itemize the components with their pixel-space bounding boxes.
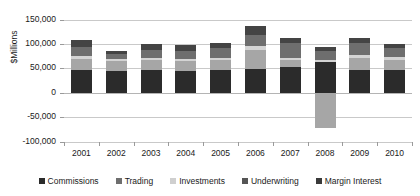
bar-segment [210, 58, 231, 60]
bar-segment [280, 60, 301, 67]
x-axis-tick [203, 142, 204, 146]
bar-segment [349, 70, 370, 93]
bar-segment [349, 55, 370, 58]
x-axis-tick [273, 142, 274, 146]
bar-segment [245, 69, 266, 92]
x-axis-tick [412, 142, 413, 146]
x-axis-label: 2010 [377, 148, 412, 158]
bar-segment [175, 45, 196, 51]
bar-segment [175, 61, 196, 71]
bar-segment [315, 51, 336, 60]
x-axis-label: 2007 [273, 148, 308, 158]
legend-label: Commissions [48, 176, 99, 186]
bar-segment [245, 35, 266, 46]
bar-column[interactable] [141, 20, 162, 142]
bar-column[interactable] [245, 20, 266, 142]
bar-column[interactable] [315, 20, 336, 142]
bar-segment [71, 59, 92, 70]
x-axis-tick [377, 142, 378, 146]
bar-segment [175, 59, 196, 61]
x-axis-label: 2009 [342, 148, 377, 158]
y-axis-tick [60, 68, 64, 69]
plot-area: 150,000100,00050,0000-50,000-100,000 [64, 20, 412, 142]
y-axis-tick-label: 50,000 [0, 62, 56, 72]
bar-segment [384, 48, 405, 57]
bar-segment [71, 40, 92, 46]
bar-column[interactable] [384, 20, 405, 142]
bar-segment [315, 47, 336, 51]
bar-segment [315, 93, 336, 128]
bar-segment [106, 54, 127, 58]
x-axis-label: 2003 [134, 148, 169, 158]
bar-segment [106, 51, 127, 54]
bar-segment [210, 43, 231, 48]
bar-column[interactable] [71, 20, 92, 142]
x-axis-tick [64, 142, 65, 146]
y-axis-tick [60, 44, 64, 45]
x-axis-tick [99, 142, 100, 146]
y-axis-tick-label: 150,000 [0, 14, 56, 24]
bar-segment [384, 70, 405, 92]
bar-column[interactable] [175, 20, 196, 142]
bar-segment [71, 56, 92, 59]
x-axis-label: 2005 [203, 148, 238, 158]
bar-segment [210, 70, 231, 92]
x-axis-label: 2004 [168, 148, 203, 158]
x-axis-tick [168, 142, 169, 146]
y-axis-tick [60, 117, 64, 118]
x-axis-tick [134, 142, 135, 146]
bar-segment [349, 38, 370, 44]
bar-column[interactable] [106, 20, 127, 142]
bar-segment [349, 43, 370, 55]
bar-segment [315, 62, 336, 92]
bar-segment [141, 60, 162, 70]
bar-segment [384, 57, 405, 59]
bar-segment [106, 59, 127, 61]
legend-swatch-icon [316, 178, 322, 184]
bar-segment [175, 71, 196, 93]
bar-segment [349, 58, 370, 70]
legend-swatch-icon [116, 178, 122, 184]
stacked-bar-chart: $Millions 150,000100,00050,0000-50,000-1… [0, 0, 420, 196]
x-axis-tick [308, 142, 309, 146]
chart-legend: CommissionsTradingInvestmentsUnderwritin… [0, 174, 420, 188]
bar-segment [384, 44, 405, 48]
bar-segment [280, 67, 301, 93]
legend-item[interactable]: Trading [116, 176, 154, 186]
bar-segment [280, 38, 301, 44]
x-axis-label: 2008 [308, 148, 343, 158]
y-axis-tick-label: 0 [0, 87, 56, 97]
y-axis-tick-label: -100,000 [0, 136, 56, 146]
legend-swatch-icon [39, 178, 45, 184]
bar-segment [175, 51, 196, 59]
bar-segment [71, 47, 92, 56]
bar-segment [315, 60, 336, 62]
y-axis-tick-label: 100,000 [0, 38, 56, 48]
bar-segment [245, 26, 266, 35]
x-axis-label: 2006 [238, 148, 273, 158]
bar-segment [245, 46, 266, 49]
bar-segment [280, 58, 301, 60]
bar-column[interactable] [280, 20, 301, 142]
bar-column[interactable] [349, 20, 370, 142]
legend-item[interactable]: Investments [170, 176, 225, 186]
legend-item[interactable]: Margin Interest [316, 176, 382, 186]
x-axis-tick [238, 142, 239, 146]
bar-segment [384, 60, 405, 71]
bar-column[interactable] [210, 20, 231, 142]
legend-item[interactable]: Underwriting [242, 176, 299, 186]
x-axis-label: 2002 [99, 148, 134, 158]
bar-segment [141, 70, 162, 92]
bar-segment [210, 48, 231, 58]
legend-item[interactable]: Commissions [39, 176, 99, 186]
legend-swatch-icon [170, 178, 176, 184]
bar-segment [106, 61, 127, 71]
y-axis-tick [60, 20, 64, 21]
x-axis-tick [342, 142, 343, 146]
legend-label: Trading [125, 176, 154, 186]
bar-segment [141, 50, 162, 58]
legend-label: Investments [179, 176, 225, 186]
legend-swatch-icon [242, 178, 248, 184]
y-axis-tick [60, 93, 64, 94]
legend-label: Underwriting [251, 176, 299, 186]
